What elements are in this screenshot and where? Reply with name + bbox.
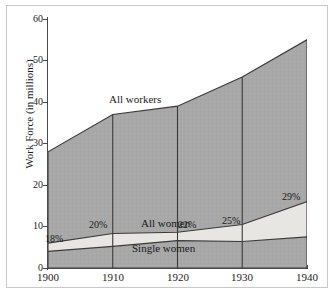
x-tick-mark-1940 <box>307 265 308 269</box>
y-tick-mark-30 <box>43 143 47 144</box>
y-tick-label-60: 60 <box>17 14 43 24</box>
annotation-pct-1940: 29% <box>282 192 300 202</box>
x-tick-label-1910: 1910 <box>91 271 135 283</box>
y-tick-mark-0 <box>43 268 47 269</box>
y-tick-label-40: 40 <box>17 97 43 107</box>
x-tick-label-1930: 1930 <box>220 271 264 283</box>
plot-area <box>48 19 307 268</box>
y-tick-label-20: 20 <box>17 180 43 190</box>
annotation-pct-1920: 22% <box>178 220 196 230</box>
annotation-all-workers: All workers <box>109 94 161 105</box>
annotation-single-women: Single women <box>132 243 195 254</box>
annotation-pct-1900: 18% <box>45 234 63 244</box>
work-force-area-chart: Work Force (in millions) 60 50 40 30 20 … <box>0 0 334 295</box>
y-tick-mark-40 <box>43 102 47 103</box>
y-tick-label-50: 50 <box>17 55 43 65</box>
x-tick-label-1940: 1940 <box>285 271 329 283</box>
y-tick-label-30: 30 <box>17 138 43 148</box>
x-tick-label-1920: 1920 <box>156 271 200 283</box>
area-series-svg <box>48 19 307 268</box>
y-tick-mark-60 <box>43 19 47 20</box>
x-tick-label-1900: 1900 <box>26 271 70 283</box>
y-tick-mark-20 <box>43 185 47 186</box>
annotation-pct-1910: 20% <box>89 220 107 230</box>
y-tick-label-10: 10 <box>17 221 43 231</box>
y-tick-mark-50 <box>43 60 47 61</box>
y-tick-mark-10 <box>43 226 47 227</box>
annotation-pct-1930: 25% <box>222 216 240 226</box>
